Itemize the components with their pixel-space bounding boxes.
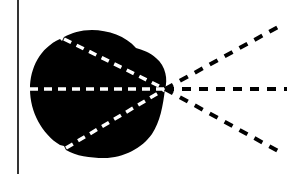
ray-diagram: [0, 0, 287, 174]
